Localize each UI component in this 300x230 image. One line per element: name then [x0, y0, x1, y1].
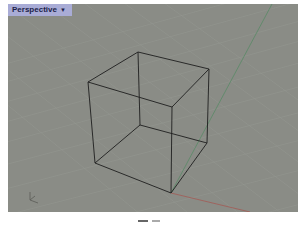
- wireframe-cube: [88, 52, 209, 193]
- perspective-viewport[interactable]: Perspective ▼: [8, 4, 298, 212]
- caption-dash: [138, 220, 148, 222]
- x-axis-line: [171, 193, 250, 212]
- viewport-canvas[interactable]: [8, 4, 298, 212]
- caption-dash: [152, 220, 160, 222]
- viewport-title-tab[interactable]: Perspective ▼: [8, 4, 72, 16]
- caption-mark: [138, 218, 168, 224]
- world-axes-icon: [30, 192, 38, 203]
- construction-grid: [8, 4, 298, 212]
- viewport-title: Perspective: [12, 4, 57, 16]
- caret-down-icon[interactable]: ▼: [60, 4, 66, 16]
